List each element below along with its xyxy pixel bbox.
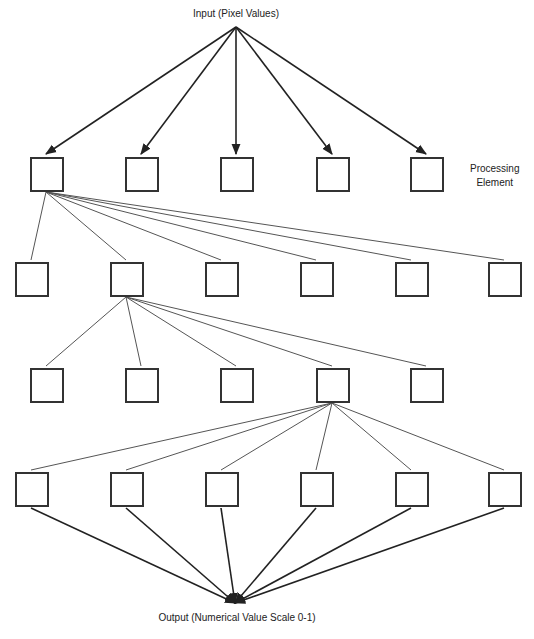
processing-element-box — [205, 262, 239, 297]
processing-element-box — [125, 368, 159, 403]
processing-element-box — [488, 262, 522, 297]
processing-element-box — [125, 157, 159, 192]
processing-element-box — [410, 368, 444, 403]
processing-element-box — [316, 157, 350, 192]
processing-element-box — [410, 157, 444, 192]
processing-element-box — [15, 262, 49, 297]
connection-lines — [0, 0, 534, 639]
processing-element-box — [316, 368, 350, 403]
processing-element-box — [30, 157, 64, 192]
processing-element-box — [110, 262, 144, 297]
processing-element-box — [300, 262, 334, 297]
processing-element-box — [30, 368, 64, 403]
processing-element-box — [488, 472, 522, 507]
processing-element-box — [300, 472, 334, 507]
output-label: Output (Numerical Value Scale 0-1) — [158, 612, 315, 623]
processing-element-box — [110, 472, 144, 507]
processing-element-box — [15, 472, 49, 507]
processing-element-label-line2: Element — [470, 176, 519, 190]
processing-element-box — [220, 368, 254, 403]
processing-element-label: Processing Element — [470, 162, 519, 190]
processing-element-box — [220, 157, 254, 192]
processing-element-label-line1: Processing — [470, 162, 519, 176]
input-label: Input (Pixel Values) — [193, 8, 279, 19]
processing-element-box — [395, 472, 429, 507]
processing-element-box — [205, 472, 239, 507]
processing-element-box — [395, 262, 429, 297]
